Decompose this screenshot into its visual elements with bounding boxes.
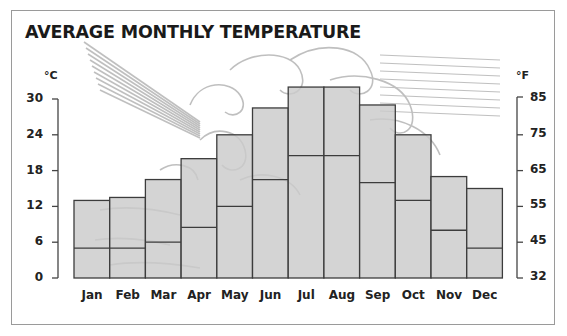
bar-dec [467,189,503,279]
y-tick-left: 24 [13,127,43,141]
y-tick-left: 18 [13,163,43,177]
y-tick-left: 30 [13,91,43,105]
y-tick-left: 6 [13,234,43,248]
x-tick-sep: Sep [360,288,396,302]
x-tick-jun: Jun [253,288,289,302]
bar-aug [324,87,360,278]
bar-jun [253,108,289,278]
bar-sep [360,105,396,278]
y-tick-right: 75 [530,126,560,140]
x-tick-dec: Dec [467,288,503,302]
bar-may [217,135,253,278]
y-tick-right: 65 [530,162,560,176]
bar-jul [288,87,324,278]
x-tick-nov: Nov [431,288,467,302]
y-tick-right: 85 [530,90,560,104]
y-axis-unit-fahrenheit: °F [516,69,529,82]
x-tick-feb: Feb [110,288,146,302]
y-tick-left: 0 [13,270,43,284]
x-tick-mar: Mar [145,288,181,302]
x-tick-jul: Jul [288,288,324,302]
bar-mar [145,180,181,278]
bar-series [74,87,502,278]
x-tick-may: May [217,288,253,302]
y-tick-right: 45 [530,233,560,247]
y-tick-right: 32 [530,269,560,283]
y-axis-unit-celsius: °C [44,69,58,82]
x-tick-oct: Oct [395,288,431,302]
y-tick-right: 55 [530,197,560,211]
x-tick-aug: Aug [324,288,360,302]
bar-feb [110,197,146,278]
bar-nov [431,177,467,278]
bar-apr [181,159,217,278]
chart-title: AVERAGE MONTHLY TEMPERATURE [25,22,361,42]
chart-canvas [0,0,567,336]
x-tick-apr: Apr [181,288,217,302]
y-tick-left: 12 [13,198,43,212]
bar-jan [74,200,110,278]
x-tick-jan: Jan [74,288,110,302]
bar-oct [395,135,431,278]
